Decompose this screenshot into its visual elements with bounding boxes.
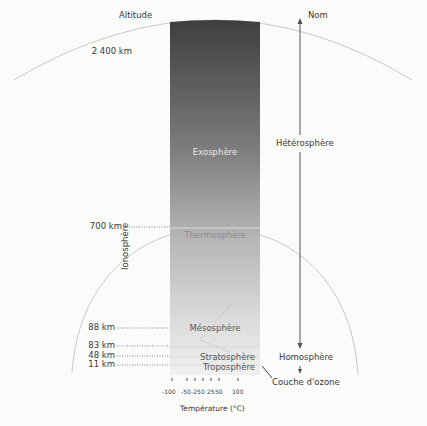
temp-tick: 25 bbox=[207, 388, 215, 395]
altitude-88km: 88 km bbox=[88, 322, 115, 332]
name-header: Nom bbox=[308, 10, 328, 20]
altitude-header: Altitude bbox=[119, 10, 152, 20]
homosphere-label: Homosphère bbox=[279, 352, 333, 362]
temp-tick: -25 bbox=[191, 388, 201, 395]
layer-mesosphere: Mésosphère bbox=[170, 323, 260, 333]
altitude-700km: 700 km bbox=[90, 221, 122, 231]
layer-stratosphere: Stratosphère bbox=[200, 352, 255, 362]
ozone-layer-label: Couche d'ozone bbox=[272, 377, 340, 387]
altitude-2400km: 2 400 km bbox=[92, 46, 132, 56]
ionosphere-label: Ionosphère bbox=[120, 223, 130, 270]
temp-tick: -100 bbox=[162, 388, 176, 395]
temperature-axis-label: Température (°C) bbox=[180, 404, 245, 413]
temp-tick: 100 bbox=[232, 388, 243, 395]
altitude-83km: 83 km bbox=[88, 340, 115, 350]
layer-exosphere: Exosphère bbox=[170, 147, 260, 157]
temp-tick: -50 bbox=[181, 388, 191, 395]
temp-tick: 50 bbox=[215, 388, 223, 395]
heterosphere-label: Hétérosphère bbox=[276, 138, 334, 148]
altitude-11km: 11 km bbox=[88, 359, 115, 369]
temp-tick: 0 bbox=[201, 388, 205, 395]
layer-thermosphere: Thermosphère bbox=[170, 230, 260, 240]
layer-troposphere: Troposphère bbox=[203, 362, 255, 372]
